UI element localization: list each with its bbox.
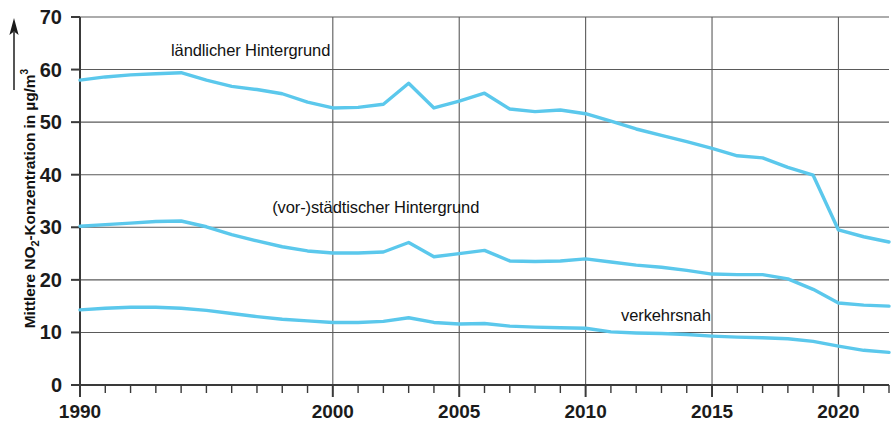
y-axis-title-mid: -Konzentration in µg/m <box>21 75 38 241</box>
series-line-laendlicher-hintergrund <box>80 307 889 352</box>
x-axis-tick-label: 1990 <box>45 402 115 421</box>
y-axis-tick-label: 20 <box>22 270 62 290</box>
y-axis-title-sub: 2 <box>29 241 41 247</box>
x-axis-tick-label: 2015 <box>677 402 747 421</box>
series-line-vor-staedtischer-hintergrund <box>80 221 889 306</box>
series-line-verkehrsnah <box>80 73 889 242</box>
y-axis-tick-label: 70 <box>22 7 62 27</box>
x-axis-tick-label: 2005 <box>424 402 494 421</box>
y-axis-tick-label: 10 <box>22 322 62 342</box>
y-axis-tick-label: 40 <box>22 165 62 185</box>
y-axis-tick-label: 50 <box>22 112 62 132</box>
x-axis-tick-label: 2000 <box>298 402 368 421</box>
x-axis-tick-label: 2010 <box>551 402 621 421</box>
no2-concentration-line-chart: Mittlere NO2-Konzentration in µg/m3 0102… <box>0 0 895 425</box>
y-axis-tick-label: 30 <box>22 217 62 237</box>
series-label-verkehrsnah: verkehrsnah <box>621 306 711 325</box>
y-axis-tick-label: 0 <box>22 375 62 395</box>
y-axis-title: Mittlere NO2-Konzentration in µg/m3 <box>19 29 40 369</box>
y-axis-tick-label: 60 <box>22 60 62 80</box>
series-label-vor-staedtischer-hintergrund: (vor-)städtischer Hintergrund <box>272 198 479 217</box>
series-label-laendlicher-hintergrund: ländlicher Hintergrund <box>171 41 330 60</box>
x-axis-tick-label: 2020 <box>803 402 873 421</box>
